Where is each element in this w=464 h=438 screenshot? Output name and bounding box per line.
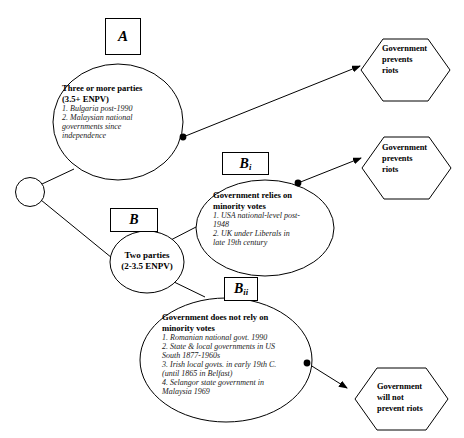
edge-root-to-two-parties: [41, 200, 112, 258]
node-item: late 19th century: [213, 239, 325, 248]
label-bii-subscript: ii: [243, 287, 248, 297]
junction-dot-three-parties: [180, 134, 187, 141]
label-box-a[interactable]: A: [105, 18, 141, 55]
outcome-line: Government: [382, 143, 448, 154]
label-box-b[interactable]: B: [110, 208, 158, 232]
edge-relies-to-prevents-riots: [298, 158, 361, 183]
node-heading-line1: Government relies on: [213, 191, 325, 201]
node-heading-line2: (2-3.5 ENPV): [104, 261, 190, 271]
outcome-line: Government: [382, 44, 448, 55]
label-a-text: A: [118, 28, 128, 45]
edge-three-parties-to-prevents-riots: [183, 66, 360, 137]
label-box-bii[interactable]: Bii: [224, 277, 258, 301]
outcome-label-will-not-prevent-riots: Government will not prevent riots: [377, 382, 449, 414]
node-heading-line1: Government does not rely on: [162, 313, 290, 323]
flow-diagram: A B Bi Bii Three or more parties (3.5+ E…: [0, 0, 464, 438]
label-bii-text: B: [234, 281, 243, 297]
node-item: Malaysia 1969: [162, 388, 290, 397]
outcome-line: will not: [377, 393, 449, 404]
node-item: independence: [62, 132, 174, 141]
edge-root-to-three-parties: [42, 169, 74, 184]
node-label-three-or-more-parties: Three or more parties (3.5+ ENPV) 1. Bul…: [62, 84, 174, 141]
node-item: 1. USA national-level post-: [213, 212, 325, 221]
label-bi-subscript: i: [249, 162, 251, 172]
outcome-label-prevents-riots-middle: Government prevents riots: [382, 143, 448, 175]
node-heading-line1: Three or more parties: [62, 84, 174, 94]
root-decision-node[interactable]: [16, 178, 45, 207]
outcome-line: prevents: [382, 55, 448, 66]
node-heading-line2: minority votes: [213, 202, 325, 212]
edge-two-parties-to-not-rely: [172, 281, 205, 297]
outcome-label-prevents-riots-top: Government prevents riots: [382, 44, 448, 76]
node-label-two-parties: Two parties (2-3.5 ENPV): [104, 250, 190, 272]
node-label-government-does-not-rely-on-minority-votes: Government does not rely on minority vot…: [162, 313, 290, 397]
label-b-text: B: [129, 212, 138, 228]
node-heading-line2: (3.5+ ENPV): [62, 95, 174, 105]
outcome-line: riots: [382, 165, 448, 176]
edge-not-rely-to-will-not-prevent: [307, 363, 347, 388]
outcome-line: riots: [382, 66, 448, 77]
outcome-line: Government: [377, 382, 449, 393]
node-heading-line2: minority votes: [162, 324, 290, 334]
label-bi-text: B: [240, 156, 249, 172]
junction-dot-relies: [295, 180, 302, 187]
label-box-bi[interactable]: Bi: [222, 152, 269, 175]
node-heading-line1: Two parties: [104, 250, 190, 260]
outcome-line: prevents: [382, 154, 448, 165]
junction-dot-not-rely: [304, 360, 311, 367]
outcome-line: prevent riots: [377, 404, 449, 415]
node-label-government-relies-on-minority-votes: Government relies on minority votes 1. U…: [213, 191, 325, 248]
